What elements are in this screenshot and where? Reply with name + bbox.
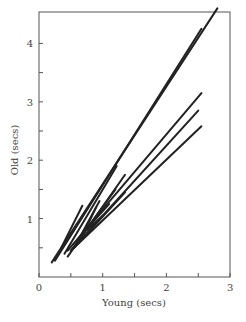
y-tick-label: 2 bbox=[27, 155, 33, 166]
data-line bbox=[74, 126, 201, 247]
x-tick-label: 0 bbox=[36, 282, 42, 293]
y-tick-label: 1 bbox=[27, 214, 33, 225]
line-chart: 0123 1234 Young (secs) Old (secs) bbox=[0, 0, 246, 322]
x-tick-label: 1 bbox=[100, 282, 106, 293]
y-tick-label: 3 bbox=[27, 97, 33, 108]
y-tick-label: 4 bbox=[27, 38, 33, 49]
y-axis-label: Old (secs) bbox=[9, 125, 20, 176]
x-axis-label: Young (secs) bbox=[101, 297, 166, 308]
data-line bbox=[55, 29, 202, 261]
y-axis-ticks: 1234 bbox=[27, 38, 43, 247]
data-lines bbox=[52, 8, 218, 262]
x-tick-label: 3 bbox=[227, 282, 233, 293]
x-axis-ticks: 0123 bbox=[36, 273, 233, 293]
x-tick-label: 2 bbox=[163, 282, 169, 293]
